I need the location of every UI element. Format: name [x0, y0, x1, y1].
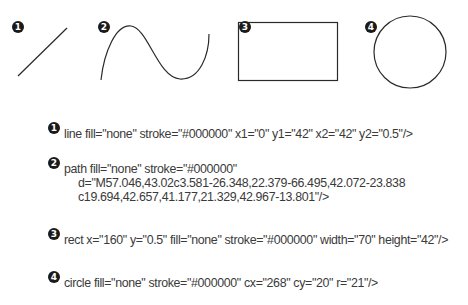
code-line-circle: circle fill="none" stroke="#000000" cx="…	[64, 276, 378, 290]
code-line-path: path fill="none" stroke="#000000"	[64, 162, 237, 176]
number-badge-2: 2	[98, 21, 110, 33]
code-line-rect: rect x="160" y="0.5" fill="none" stroke=…	[64, 233, 448, 247]
code-line-line: line fill="none" stroke="#000000" x1="0"…	[64, 127, 413, 141]
code-line-path-d-cont: c19.694,42.657,41.177,21.329,42.967-13.8…	[78, 190, 329, 204]
shape-illustrations: 1 2 3 4	[0, 0, 468, 100]
code-badge-3: 3	[48, 228, 60, 240]
shapes-canvas	[0, 0, 468, 100]
shape-curve-path	[101, 26, 209, 80]
shape-rectangle	[239, 23, 338, 81]
number-badge-1: 1	[12, 21, 24, 33]
number-badge-3: 3	[239, 21, 251, 33]
shape-line	[18, 28, 67, 76]
code-badge-4: 4	[48, 271, 60, 283]
shape-circle	[374, 16, 446, 88]
code-badge-2: 2	[48, 157, 60, 169]
code-badge-1: 1	[48, 122, 60, 134]
number-badge-4: 4	[365, 21, 377, 33]
code-line-path-d: d="M57.046,43.02c3.581-26.348,22.379-66.…	[78, 176, 405, 190]
